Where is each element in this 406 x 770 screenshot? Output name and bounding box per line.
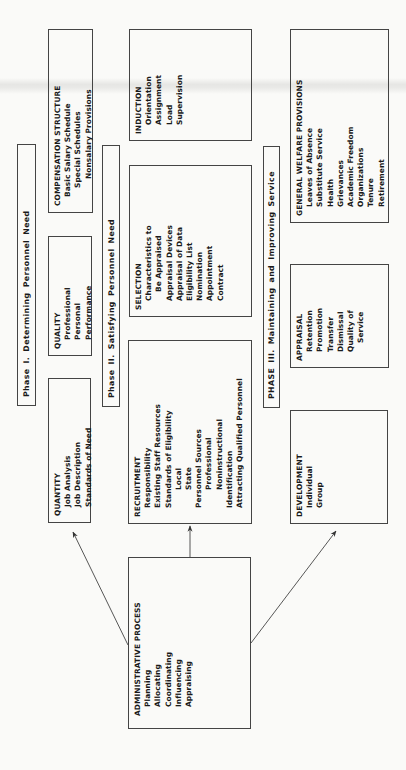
connector-arrows (0, 0, 406, 770)
arrow-to-development (251, 531, 336, 643)
arrow-to-quantity (73, 532, 128, 645)
